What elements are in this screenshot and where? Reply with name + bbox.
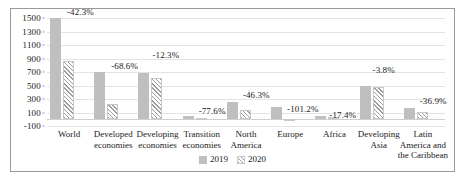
legend-swatch-2019 [199,156,207,164]
y-axis-tick-label: 1300 [22,27,41,36]
bar-group [401,18,445,126]
y-axis-tick-label: 900 [27,54,41,63]
y-axis-tick-label: 1500 [22,14,41,23]
bar-2019[interactable] [50,18,61,119]
x-axis-label-line: Latin [391,129,455,140]
percent-change-label: -46.3% [243,91,270,100]
y-axis-tick-mark [42,18,45,19]
bar-2020[interactable] [107,104,118,119]
bar-2020[interactable] [63,61,74,119]
bar-2020[interactable] [417,112,428,119]
y-axis-tick-mark [42,112,45,113]
gridline [47,126,445,127]
bar-2020[interactable] [151,78,162,119]
bar-group [135,18,179,126]
percent-change-label: -68.6% [111,62,138,71]
y-axis-tick-label: 300 [27,95,41,104]
bar-group [224,18,268,126]
y-axis-tick-mark [42,99,45,100]
percent-change-label: -17.4% [329,111,356,120]
bar-2020[interactable] [373,87,384,119]
chart-legend: 2019 2020 [11,154,454,165]
bar-group [91,18,135,126]
bar-2019[interactable] [271,107,282,119]
y-axis-tick-mark [42,126,45,127]
y-axis-tick-mark [42,58,45,59]
bar-2019[interactable] [183,116,194,120]
legend-swatch-2020 [237,156,245,164]
y-axis-tick-label: 500 [27,81,41,90]
y-axis: 150013001100900700500300100-100 [11,18,45,126]
chart-frame: 150013001100900700500300100-100 -42.3%-6… [10,8,455,172]
percent-change-label: -36.9% [420,97,447,106]
y-axis-tick-label: 700 [27,68,41,77]
bar-2020[interactable] [240,110,251,119]
plot-area: -42.3%-68.6%-12.3%-77.6%-46.3%-101.2%-17… [47,18,445,126]
legend-label-2020: 2020 [248,155,266,164]
legend-item-2019[interactable]: 2019 [199,155,228,164]
legend-label-2019: 2019 [210,155,228,164]
y-axis-tick-mark [42,45,45,46]
legend-item-2020[interactable]: 2020 [237,155,266,164]
percent-change-label: -3.8% [373,66,395,75]
bar-2019[interactable] [315,116,326,119]
x-axis-label-line: America and [391,140,455,151]
y-axis-tick-label: 1100 [23,41,41,50]
percent-change-label: -77.6% [199,107,226,116]
bar-2020[interactable] [196,118,207,120]
bar-2019[interactable] [360,86,371,120]
bar-2019[interactable] [94,72,105,119]
y-axis-tick-mark [42,72,45,73]
x-axis-label-line: America [214,140,278,151]
percent-change-label: -12.3% [152,51,179,60]
bar-2019[interactable] [404,108,415,119]
percent-change-label: -42.3% [67,8,94,17]
bar-2020[interactable] [284,119,295,121]
y-axis-tick-label: 100 [27,108,41,117]
bar-2019[interactable] [227,102,238,119]
bar-2019[interactable] [138,73,149,120]
y-axis-tick-mark [42,85,45,86]
y-axis-tick-mark [42,31,45,32]
bar-group [47,18,91,126]
